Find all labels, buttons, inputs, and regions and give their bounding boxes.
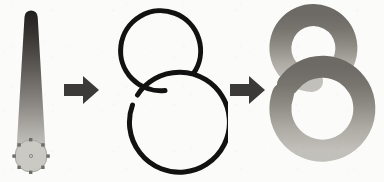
handle-w-icon[interactable] — [12, 154, 15, 157]
upper-loop-path[interactable] — [121, 11, 201, 91]
handle-nw-icon[interactable] — [17, 143, 20, 146]
figure-eight-path[interactable] — [121, 11, 228, 172]
handle-ne-icon[interactable] — [41, 143, 44, 146]
arrow-right-icon — [64, 76, 99, 104]
figure-canvas — [0, 0, 384, 182]
flow-arrow-source-to-path — [62, 70, 102, 110]
panel-figure-eight-path — [110, 0, 228, 182]
handle-n-icon[interactable] — [29, 138, 32, 141]
handle-s-icon[interactable] — [29, 171, 32, 174]
tapered-bar[interactable] — [17, 10, 46, 150]
handle-e-icon[interactable] — [46, 154, 49, 157]
selection-handles[interactable] — [12, 138, 49, 174]
lower-loop-path[interactable] — [129, 72, 228, 172]
panel-gradient-figure-eight — [262, 0, 384, 182]
handle-sw-icon[interactable] — [17, 166, 20, 169]
tapered-stroke-shape[interactable] — [17, 10, 46, 150]
arrow-right-icon — [230, 76, 265, 104]
handle-se-icon[interactable] — [41, 166, 44, 169]
figure-eight-gradient-stroke[interactable] — [280, 15, 364, 151]
